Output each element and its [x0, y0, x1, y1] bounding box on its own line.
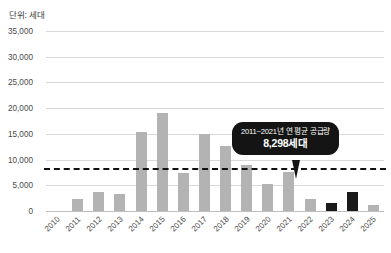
x-axis-tick-label: 2019 — [233, 215, 252, 234]
bar-2011[interactable] — [72, 199, 83, 211]
bar-2022[interactable] — [305, 199, 316, 211]
bar-2012[interactable] — [93, 192, 104, 211]
bar-2020[interactable] — [262, 184, 273, 211]
bar-2024[interactable] — [347, 192, 358, 211]
callout-value: 8,298세대 — [241, 137, 330, 150]
y-axis-tick-label: 35,000 — [0, 27, 33, 36]
bar-2025[interactable] — [368, 205, 379, 211]
x-axis-tick-label: 2018 — [211, 215, 230, 234]
x-axis-tick-label: 2014 — [127, 215, 146, 234]
chart-container: 단위: 세대 35,00030,00025,00020,00015,00010,… — [0, 0, 391, 253]
x-axis-tick-label: 2016 — [169, 215, 188, 234]
bars-layer — [46, 31, 384, 211]
bar-2019[interactable] — [241, 165, 252, 211]
x-axis-tick-label: 2022 — [296, 215, 315, 234]
x-axis-tick-label: 2025 — [359, 215, 378, 234]
x-axis-tick-label: 2011 — [64, 215, 83, 234]
x-axis-tick-label: 2013 — [106, 215, 125, 234]
x-axis-tick-label: 2024 — [338, 215, 357, 234]
x-axis-tick-label: 2021 — [275, 215, 294, 234]
x-axis-tick-label: 2023 — [317, 215, 336, 234]
x-axis-tick-label: 2020 — [254, 215, 273, 234]
gridline — [46, 211, 384, 212]
y-axis-tick-label: 10,000 — [0, 155, 33, 164]
average-callout: 2011~2021년 연 평균 공급량 8,298세대 — [232, 122, 339, 155]
bar-2014[interactable] — [136, 132, 147, 211]
average-line — [44, 168, 386, 170]
bar-2016[interactable] — [178, 173, 189, 211]
y-axis-tick-label: 30,000 — [0, 52, 33, 61]
bar-2023[interactable] — [326, 203, 337, 211]
bar-2018[interactable] — [220, 146, 231, 211]
x-axis-tick-label: 2010 — [42, 215, 61, 234]
bar-2013[interactable] — [114, 194, 125, 211]
x-axis-tick-label: 2015 — [148, 215, 167, 234]
y-axis-tick-label: 0 — [0, 207, 33, 216]
bar-2017[interactable] — [199, 134, 210, 211]
x-axis-tick-label: 2012 — [85, 215, 104, 234]
y-axis-tick-label: 25,000 — [0, 78, 33, 87]
y-axis-tick-label: 5,000 — [0, 181, 33, 190]
y-axis-tick-label: 20,000 — [0, 104, 33, 113]
x-axis: 2010201120122013201420152016201720182019… — [46, 213, 384, 253]
y-axis-tick-label: 15,000 — [0, 129, 33, 138]
unit-label: 단위: 세대 — [9, 8, 45, 20]
callout-title: 2011~2021년 연 평균 공급량 — [241, 126, 330, 137]
x-axis-tick-label: 2017 — [190, 215, 209, 234]
callout-tail-icon — [292, 160, 300, 179]
bar-2015[interactable] — [157, 113, 168, 211]
